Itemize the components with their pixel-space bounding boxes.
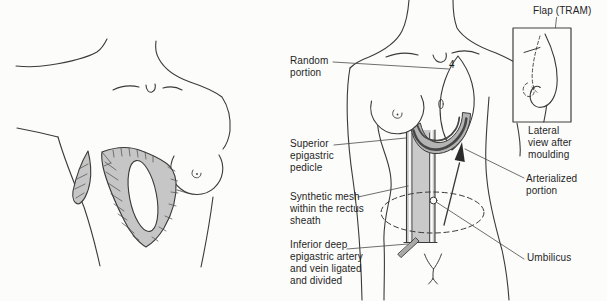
label-superior-epigastric-pedicle: Superior epigastric pedicle <box>290 138 348 174</box>
arterialized-arrow <box>444 142 465 225</box>
center-clavicle-left <box>386 53 418 57</box>
label-synthetic-mesh: Synthetic mesh within the rectus sheath <box>290 191 374 227</box>
label-inferior-deep-epigastric: Inferior deep epigastric artery and vein… <box>290 239 374 287</box>
center-nipple-dot <box>397 114 399 116</box>
tram-flap-diagram: Random portion Superior epigastric pedic… <box>0 0 607 301</box>
left-nipple-dot <box>196 173 198 175</box>
leader-umbilicus <box>437 203 524 260</box>
left-figure-body-right-edge <box>201 197 213 267</box>
label-random-portion: Random portion <box>290 55 342 79</box>
left-breast-fill <box>170 147 222 199</box>
center-arm-right-below-box <box>517 123 520 156</box>
pubic-mark <box>425 254 442 284</box>
left-figure-clavicle-right <box>163 87 182 90</box>
center-sternal-notch <box>433 53 446 62</box>
left-figure-neck-shoulder <box>16 39 107 67</box>
label-lateral-view: Lateral view after moulding <box>528 125 580 161</box>
left-figure-arm-underside <box>17 128 58 137</box>
label-flap-tram: Flap (TRAM) <box>533 5 591 17</box>
label-umbilicus: Umbilicus <box>527 252 571 264</box>
umbilicus-circle <box>430 197 437 204</box>
center-torso-right <box>486 97 509 300</box>
label-flap-number: 4 <box>449 59 455 71</box>
leader-arterialized <box>465 149 524 178</box>
lateral-view-inset <box>513 28 571 122</box>
center-clavicle-right <box>452 51 479 54</box>
left-figure-clavicle-left <box>113 86 139 90</box>
left-figure <box>16 39 230 267</box>
small-flap <box>73 151 91 204</box>
center-neck-right-shoulder <box>453 0 514 62</box>
left-figure-sternal-notch <box>146 84 155 92</box>
label-arterialized-portion: Arterialized portion <box>526 173 590 197</box>
left-figure-neck-back-arm <box>156 41 231 149</box>
center-neck-left <box>350 0 409 68</box>
inset-box-frame <box>513 28 571 122</box>
